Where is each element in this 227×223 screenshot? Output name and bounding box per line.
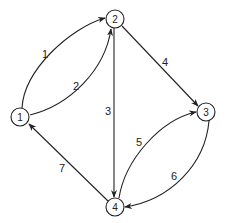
edge-label-1: 1 [42, 48, 48, 60]
edge-label-3: 3 [105, 105, 111, 117]
node-2: 2 [106, 10, 124, 28]
node-1: 1 [11, 108, 29, 126]
edge-label-7: 7 [59, 162, 65, 174]
node-4: 4 [106, 198, 124, 216]
edge-5 [119, 112, 196, 198]
edge-label-6: 6 [171, 170, 177, 182]
edge-7 [29, 124, 108, 201]
edge-1 [22, 18, 105, 108]
edge-2 [30, 29, 111, 115]
edge-label-5: 5 [136, 136, 142, 148]
node-label-4: 4 [112, 202, 118, 213]
node-label-1: 1 [17, 112, 23, 123]
edge-label-2: 2 [73, 80, 79, 92]
edge-label-4: 4 [162, 56, 168, 68]
node-3: 3 [197, 103, 215, 121]
edge-6 [125, 121, 209, 207]
node-label-3: 3 [203, 107, 209, 118]
node-label-2: 2 [112, 14, 118, 25]
graph-canvas: 1 2 3 4 5 6 7 1 2 3 4 [0, 0, 227, 223]
graph-diagram: 1 2 3 4 5 6 7 1 2 3 4 [0, 0, 227, 223]
edge-4 [122, 26, 198, 106]
